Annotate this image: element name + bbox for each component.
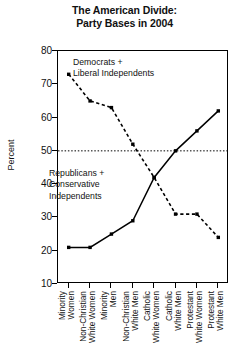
- y-axis-tick-label: 70: [26, 78, 52, 89]
- x-axis-tick-label: CatholicWhite Women: [143, 291, 162, 353]
- data-point-marker: [88, 99, 91, 102]
- y-axis-tick-mark: [52, 250, 57, 251]
- x-axis-tick-label: CatholicWhite Men: [165, 291, 184, 353]
- x-axis-tick-mark: [110, 283, 111, 288]
- x-axis-tick-mark: [89, 283, 90, 288]
- x-axis-tick-mark: [175, 283, 176, 288]
- annotation-democrats: Democrats +Liberal Independents: [73, 57, 154, 80]
- x-axis-tick-mark: [132, 283, 133, 288]
- x-axis-tick-label: ProtestantWhite Women: [186, 291, 205, 353]
- plot-area: [57, 50, 228, 283]
- x-axis-tick-label: MinorityMen: [100, 291, 119, 353]
- x-axis-tick-label: Non-ChristianWhite Men: [122, 291, 141, 353]
- x-axis-tick-mark: [196, 283, 197, 288]
- y-axis-tick-label: 20: [26, 244, 52, 255]
- x-axis-tick-label-line: White Women: [88, 291, 97, 353]
- y-axis-tick-mark: [52, 117, 57, 118]
- y-axis-tick-label: 80: [26, 45, 52, 56]
- x-axis-tick-label-line: White Women: [195, 291, 204, 353]
- y-axis-tick-label: 30: [26, 211, 52, 222]
- y-axis-ticks: 8070605040302010: [22, 0, 52, 356]
- data-point-marker: [217, 236, 220, 239]
- annotation-line: Republicans +: [49, 168, 104, 179]
- x-axis-tick-label: MinorityWomen: [58, 291, 77, 353]
- data-point-marker: [131, 219, 134, 222]
- data-point-marker: [195, 212, 198, 215]
- data-point-marker: [88, 246, 91, 249]
- data-point-marker: [131, 143, 134, 146]
- x-axis-tick-label: ProtestantWhite Men: [207, 291, 226, 353]
- annotation-line: Independents: [49, 191, 104, 202]
- x-axis-tick-label-line: Women: [67, 291, 76, 353]
- annotation-line: Liberal Independents: [73, 68, 154, 79]
- y-axis-tick-mark: [52, 83, 57, 84]
- data-point-marker: [67, 246, 70, 249]
- annotation-line: Democrats +: [73, 57, 154, 68]
- y-axis-tick-mark: [52, 150, 57, 151]
- x-axis-tick-mark: [153, 283, 154, 288]
- y-axis-tick-mark: [52, 216, 57, 217]
- x-axis-tick-label-line: White Women: [153, 291, 162, 353]
- x-axis-tick-label-line: Men: [110, 291, 119, 353]
- y-axis-tick-label: 10: [26, 278, 52, 289]
- x-axis-tick-label-line: White Men: [174, 291, 183, 353]
- y-axis-tick-mark: [52, 50, 57, 51]
- data-point-marker: [110, 106, 113, 109]
- y-axis-tick-label: 60: [26, 111, 52, 122]
- chart-container: The American Divide: Party Bases in 2004…: [0, 0, 249, 356]
- data-point-marker: [67, 73, 70, 76]
- data-point-marker: [174, 149, 177, 152]
- data-point-marker: [195, 129, 198, 132]
- x-axis-tick-label-line: White Men: [217, 291, 226, 353]
- annotation-republicans: Republicans +ConservativeIndependents: [49, 168, 104, 202]
- x-axis-tick-label-line: White Men: [131, 291, 140, 353]
- x-axis-tick-mark: [68, 283, 69, 288]
- data-point-marker: [217, 109, 220, 112]
- data-point-marker: [152, 176, 155, 179]
- y-axis-tick-mark: [52, 183, 57, 184]
- y-axis-label: Percent: [6, 125, 16, 185]
- annotation-line: Conservative: [49, 179, 104, 190]
- data-point-marker: [110, 232, 113, 235]
- data-point-marker: [174, 212, 177, 215]
- x-axis-tick-mark: [217, 283, 218, 288]
- y-axis-tick-mark: [52, 283, 57, 284]
- x-axis-tick-label: Non-ChristianWhite Women: [79, 291, 98, 353]
- y-axis-tick-label: 50: [26, 144, 52, 155]
